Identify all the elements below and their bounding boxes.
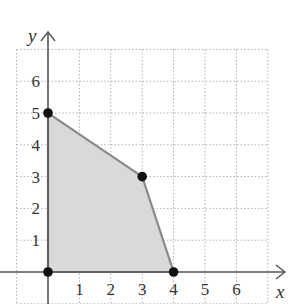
x-tick-label: 4 — [169, 280, 178, 299]
y-tick-label: 2 — [32, 199, 41, 218]
feasible-region — [48, 113, 174, 272]
vertex-point — [169, 267, 179, 277]
y-tick-label: 6 — [32, 72, 41, 91]
y-tick-label: 5 — [32, 104, 41, 123]
x-tick-label: 3 — [138, 280, 147, 299]
vertex-point — [43, 108, 53, 118]
coordinate-plane: 123456123456 x y — [0, 0, 291, 304]
x-tick-label: 2 — [107, 280, 116, 299]
x-tick-label: 6 — [232, 280, 241, 299]
y-axis-label: y — [26, 25, 37, 46]
y-tick-label: 1 — [32, 231, 41, 250]
y-tick-label: 4 — [32, 136, 41, 155]
x-tick-label: 1 — [75, 280, 84, 299]
x-axis-label: x — [275, 281, 285, 302]
vertex-point — [43, 267, 53, 277]
x-tick-label: 5 — [201, 280, 210, 299]
vertex-point — [137, 172, 147, 182]
y-tick-label: 3 — [32, 168, 41, 187]
